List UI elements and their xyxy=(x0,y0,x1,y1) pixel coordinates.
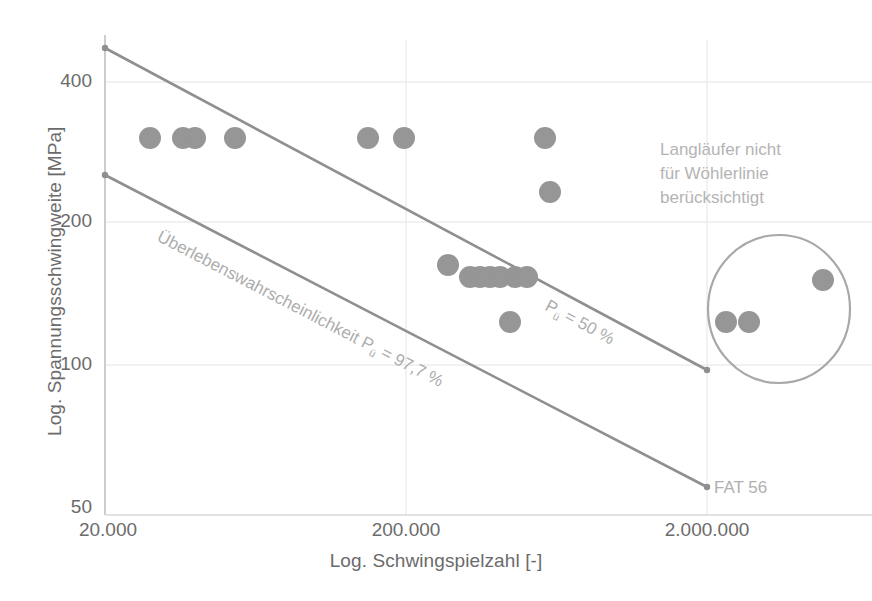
y-tick-label-100: 100 xyxy=(20,353,92,375)
runout-note-line-1: Langläufer nicht xyxy=(660,138,781,162)
y-tick-label-400: 400 xyxy=(20,70,92,92)
runout-note-line-3: berücksichtigt xyxy=(660,186,764,210)
x-tick-label-20k: 20.000 xyxy=(28,519,188,541)
data-point xyxy=(534,127,556,149)
fat-label: FAT 56 xyxy=(714,478,767,498)
data-point xyxy=(393,127,415,149)
x-tick-label-2m: 2.000.000 xyxy=(627,519,787,541)
y-axis-title: Log. Spannungsschwingweite [MPa] xyxy=(44,136,66,436)
plot-canvas xyxy=(0,0,872,601)
data-point xyxy=(738,311,760,333)
data-point xyxy=(224,127,246,149)
y-tick-label-50: 50 xyxy=(20,496,92,518)
x-axis-title: Log. Schwingspielzahl [-] xyxy=(0,550,872,572)
runout-note-line-2: für Wöhlerlinie xyxy=(660,162,769,186)
data-point xyxy=(437,254,459,276)
data-point xyxy=(184,127,206,149)
data-point xyxy=(812,269,834,291)
data-point xyxy=(139,127,161,149)
data-point xyxy=(516,266,538,288)
y-tick-label-200: 200 xyxy=(20,210,92,232)
chart-figure: Log. Spannungsschwingweite [MPa] Log. Sc… xyxy=(0,0,872,601)
data-point xyxy=(499,311,521,333)
runout-ellipse xyxy=(708,235,850,383)
data-point xyxy=(357,127,379,149)
data-point xyxy=(539,181,561,203)
x-tick-label-200k: 200.000 xyxy=(326,519,486,541)
data-point xyxy=(715,311,737,333)
